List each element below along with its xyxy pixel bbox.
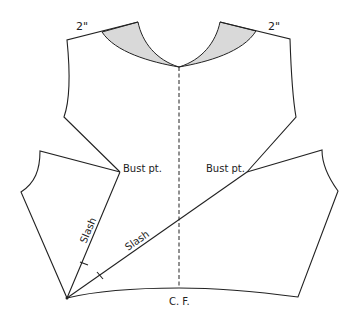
- right-shoulder-measure-label: 2": [268, 20, 280, 33]
- hem-line: [67, 288, 179, 298]
- center-front-label: C. F.: [169, 296, 190, 307]
- right-neckline-shade: [179, 22, 256, 67]
- pivot-point: [66, 297, 69, 300]
- left-shoulder-measure-label: 2": [76, 20, 88, 33]
- right-bust-point-label: Bust pt.: [206, 163, 245, 174]
- left-lower-panel-outline: [21, 151, 120, 298]
- pattern-diagram: 2" 2" Bust pt. Bust pt. Slash Slash C. F…: [0, 0, 354, 319]
- left-bust-point-label: Bust pt.: [123, 163, 162, 174]
- right-lower-panel-outline: [179, 150, 338, 297]
